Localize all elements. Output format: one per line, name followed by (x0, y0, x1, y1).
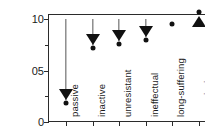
y-tick (44, 122, 49, 123)
y-tick (44, 19, 49, 20)
baseline-top (48, 14, 205, 15)
point-dot[interactable] (90, 45, 95, 50)
category-label: ineffectual (150, 73, 160, 117)
y-tick-label: 05 (32, 65, 44, 76)
y-tick (44, 71, 49, 72)
point-dot[interactable] (196, 10, 201, 15)
category-label: long-suffering (176, 58, 186, 117)
y-tick-minor (45, 96, 49, 97)
x-tick (66, 121, 67, 126)
triangle-down-marker[interactable] (139, 26, 153, 37)
x-tick (146, 121, 147, 126)
category-label: passive (70, 84, 80, 117)
plot-area: 00510 passiveinactiveunresistantineffect… (48, 14, 205, 122)
x-tick (93, 121, 94, 126)
x-tick (172, 121, 173, 126)
y-tick-label: 10 (32, 14, 44, 25)
x-tick (119, 121, 120, 126)
triangle-up-marker[interactable] (192, 16, 206, 27)
point-dot[interactable] (143, 37, 148, 42)
triangle-down-marker[interactable] (86, 34, 100, 45)
category-label: inactive (97, 84, 107, 117)
category-label: permissive (203, 71, 206, 117)
chart-figure: tr relative transinformation 00510 passi… (0, 0, 205, 137)
y-tick-minor (45, 45, 49, 46)
point-dot[interactable] (170, 22, 175, 27)
point-dot[interactable] (117, 41, 122, 46)
y-tick-label: 0 (38, 117, 44, 128)
triangle-down-marker[interactable] (112, 30, 126, 41)
point-dot[interactable] (64, 101, 69, 106)
x-axis-line (48, 121, 205, 122)
dropline (65, 19, 66, 100)
y-axis-line (48, 14, 49, 122)
x-tick (199, 121, 200, 126)
category-label: unresistant (123, 69, 133, 117)
